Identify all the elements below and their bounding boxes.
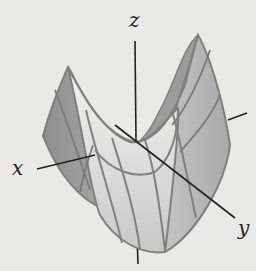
axis-stub-right <box>228 113 247 120</box>
y-axis-label: y <box>238 218 249 238</box>
z-axis <box>135 41 136 141</box>
saddle-surface-plot <box>0 0 256 271</box>
z-axis-label: z <box>129 10 140 30</box>
x-axis-label: x <box>12 158 23 178</box>
saddle-surface-figure: z x y <box>0 0 256 271</box>
